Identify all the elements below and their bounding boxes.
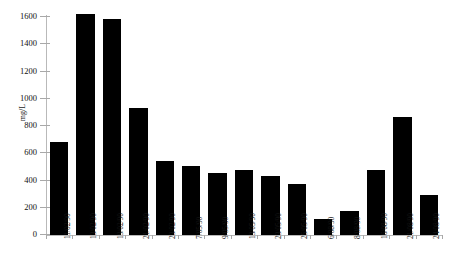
y-tick-label: 0 (33, 229, 37, 239)
x-tick-mark (72, 235, 73, 239)
x-tick-mark (204, 235, 205, 239)
x-tick-mark (152, 235, 153, 239)
x-tick-label: 21/08/90 (406, 213, 415, 239)
x-tick-mark (336, 235, 337, 239)
bar-chart: mg/L 02004006008001000120014001600 11/02… (0, 0, 450, 280)
bar (76, 14, 94, 235)
y-tick-label: 1200 (20, 66, 37, 76)
bar (103, 19, 121, 235)
x-tick-label: 25/05/90 (300, 213, 309, 239)
x-tick-mark (99, 235, 100, 239)
x-tick-label: 21/02/90 (142, 213, 151, 239)
y-tick-label: 1600 (20, 11, 37, 21)
x-tick-mark (178, 235, 179, 239)
x-tick-label: 16/08/90 (380, 213, 389, 239)
x-tick-label: 6/08/90 (327, 217, 336, 239)
x-tick-mark (416, 235, 417, 239)
x-tick-label: 11/02/90 (63, 213, 72, 239)
x-tick-label: 8/08/90 (353, 217, 362, 239)
x-tick-mark (125, 235, 126, 239)
x-tick-mark (231, 235, 232, 239)
x-tick-mark (389, 235, 390, 239)
x-tick-label: 13/05/90 (248, 213, 257, 239)
x-tick-mark (257, 235, 258, 239)
x-tick-label: 7/05/90 (195, 217, 204, 239)
x-tick-label: 23/05/90 (274, 213, 283, 239)
x-tick-mark (284, 235, 285, 239)
x-tick-label: 23/02/90 (168, 213, 177, 239)
y-tick-label: 600 (24, 147, 37, 157)
y-tick-label: 800 (24, 120, 37, 130)
x-tick-label: 9/05/90 (221, 217, 230, 239)
plot-area (46, 17, 442, 235)
x-tick-label: 19/02/90 (116, 213, 125, 239)
x-tick-label: 13/02/90 (89, 213, 98, 239)
x-tick-mark (442, 235, 443, 239)
x-tick-mark (46, 235, 47, 239)
x-tick-mark (310, 235, 311, 239)
x-tick-mark (363, 235, 364, 239)
y-tick-label: 1000 (20, 93, 37, 103)
y-tick-label: 400 (24, 175, 37, 185)
y-tick-label: 200 (24, 202, 37, 212)
x-tick-label: 24/08/90 (432, 213, 441, 239)
y-tick-label: 1400 (20, 38, 37, 48)
